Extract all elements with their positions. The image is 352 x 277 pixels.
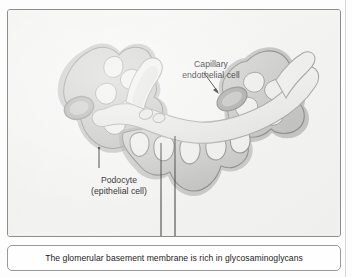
figure-root: Capillary endothelial cell Podocyte (epi… — [0, 0, 352, 277]
podocyte-left-gap-3 — [96, 83, 117, 104]
page-edge-artifact — [345, 0, 346, 277]
foot-process-gap-1 — [130, 132, 149, 156]
podocyte-left-gap-1 — [104, 56, 123, 77]
foot-process-gap-2 — [154, 136, 174, 161]
label-capillary-endothelial-cell: Capillary endothelial cell — [163, 59, 259, 80]
caption-box: The glomerular basement membrane is rich… — [7, 245, 341, 271]
label-podocyte: Podocyte (epithelial cell) — [64, 175, 174, 196]
illustration-panel: Capillary endothelial cell Podocyte (epi… — [7, 9, 341, 237]
caption-text: The glomerular basement membrane is rich… — [45, 253, 303, 263]
glomerular-barrier-illustration — [8, 10, 341, 237]
leader-dot-podocyte — [98, 147, 100, 149]
